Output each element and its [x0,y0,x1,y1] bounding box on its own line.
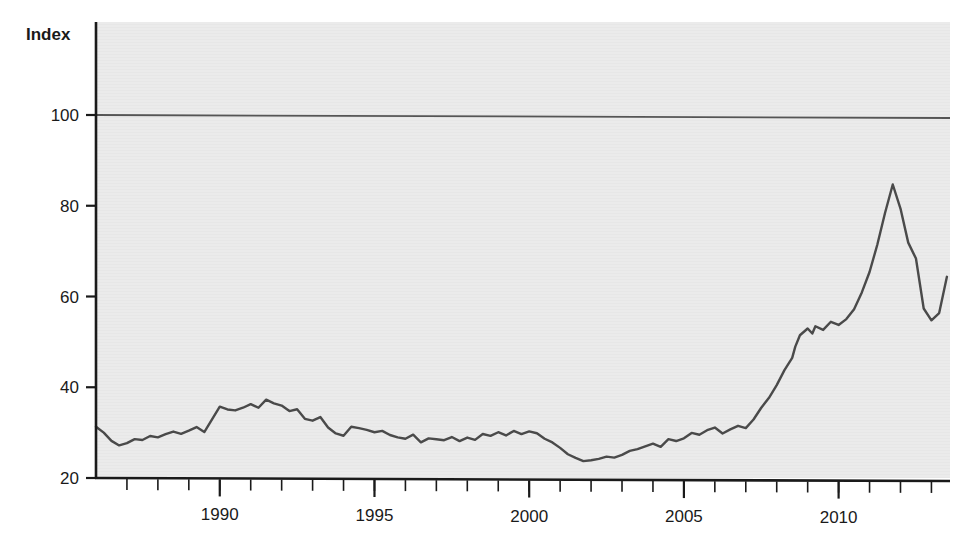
y-tick-label: 100 [51,106,79,125]
x-tick-label: 2000 [510,507,548,526]
x-tick-label: 2005 [665,507,703,526]
chart-figure: Index 20406080100 19901995200020052010 [0,0,969,542]
y-tick-label: 60 [60,288,79,307]
y-tick-label: 20 [60,469,79,488]
y-tick-label: 80 [60,197,79,216]
line-chart: Index 20406080100 19901995200020052010 [0,0,969,542]
y-axis-title: Index [26,25,71,44]
y-tick-label: 40 [60,378,79,397]
x-tick-label: 2010 [820,508,858,527]
x-tick-label: 1990 [201,505,239,524]
x-tick-label: 1995 [356,506,394,525]
